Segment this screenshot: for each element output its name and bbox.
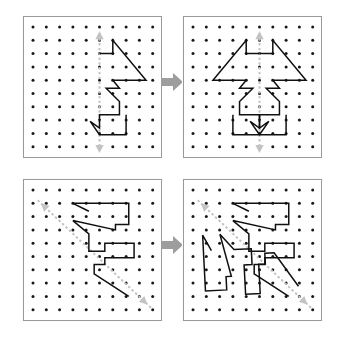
grid-dot (245, 268, 248, 271)
grid-dot (71, 79, 74, 82)
grid-dot (111, 215, 114, 218)
grid-dot (32, 202, 35, 205)
panel-example-1-before (23, 16, 162, 158)
grid-dot (125, 65, 128, 68)
grid-dot (71, 189, 74, 192)
grid-dot (311, 282, 314, 285)
grid-dot (192, 105, 195, 108)
grid-dot (58, 79, 61, 82)
grid-dot (271, 119, 274, 122)
grid-dot (58, 268, 61, 271)
geoboard-1-after (184, 17, 321, 157)
grid-dot (151, 92, 154, 95)
grid-dot (218, 202, 221, 205)
grid-dot (231, 215, 234, 218)
grid-dot (192, 255, 195, 258)
geoboard-1-before (24, 17, 161, 157)
grid-dot (138, 268, 141, 271)
grid-dot (205, 52, 208, 55)
grid-dot (218, 52, 221, 55)
grid-dot (311, 189, 314, 192)
grid-dot (218, 39, 221, 42)
grid-dot (45, 105, 48, 108)
grid-dot (45, 202, 48, 205)
grid-dot (98, 242, 101, 245)
grid-dot (125, 145, 128, 148)
grid-dot (151, 132, 154, 135)
grid-dot (151, 242, 154, 245)
geoboard-2-before (24, 180, 161, 320)
grid-dot (192, 282, 195, 285)
grid-dot (298, 52, 301, 55)
grid-dot (245, 215, 248, 218)
grid-dot (58, 39, 61, 42)
grid-dot (231, 282, 234, 285)
symmetry-worksheet-figure (0, 0, 347, 342)
grid-dot (125, 189, 128, 192)
grid-dot (231, 228, 234, 231)
example-row-2 (0, 171, 347, 334)
grid-dot (311, 268, 314, 271)
grid-dot (205, 39, 208, 42)
grid-dot (71, 308, 74, 311)
grid-dot (218, 119, 221, 122)
grid-dot (138, 228, 141, 231)
grid-dot (71, 228, 74, 231)
grid-dot (98, 282, 101, 285)
grid-dot (58, 308, 61, 311)
grid-dot (151, 255, 154, 258)
grid-dot (258, 228, 261, 231)
panel-example-2-before (23, 179, 162, 321)
grid-dot (245, 65, 248, 68)
grid-dot (125, 92, 128, 95)
grid-dot (258, 79, 261, 82)
grid-dot (111, 282, 114, 285)
grid-dot (258, 26, 261, 29)
grid-dot (85, 268, 88, 271)
grid-dot (298, 145, 301, 148)
grid-dot (151, 145, 154, 148)
grid-dot (58, 202, 61, 205)
grid-dot (138, 189, 141, 192)
grid-dot (218, 255, 221, 258)
grid-dot (285, 308, 288, 311)
grid-dot (32, 268, 35, 271)
grid-dot (98, 228, 101, 231)
grid-dot (32, 228, 35, 231)
grid-dot (311, 295, 314, 298)
grid-dot (45, 39, 48, 42)
grid-dot (45, 268, 48, 271)
grid-dot (192, 295, 195, 298)
grid-dot (71, 105, 74, 108)
grid-dot (311, 145, 314, 148)
grid-dot (45, 308, 48, 311)
grid-dot (58, 52, 61, 55)
grid-dot (58, 215, 61, 218)
grid-dot (298, 282, 301, 285)
grid-dot (231, 145, 234, 148)
grid-dot (218, 215, 221, 218)
grid-dot (245, 119, 248, 122)
grid-dot (311, 26, 314, 29)
grid-dot (138, 308, 141, 311)
grid-dot (245, 26, 248, 29)
grid-dot (298, 39, 301, 42)
grid-dot (85, 52, 88, 55)
grid-dot (85, 145, 88, 148)
grid-dot (151, 119, 154, 122)
grid-dot (71, 132, 74, 135)
grid-dot (45, 52, 48, 55)
grid-dot (138, 202, 141, 205)
grid-dot (192, 228, 195, 231)
grid-dot (192, 52, 195, 55)
grid-dot (192, 308, 195, 311)
grid-dot (245, 295, 248, 298)
grid-dot (71, 215, 74, 218)
grid-dot (298, 215, 301, 218)
grid-dot (138, 145, 141, 148)
grid-dot (151, 189, 154, 192)
grid-dot (311, 228, 314, 231)
grid-dot (311, 255, 314, 258)
grid-dot (151, 215, 154, 218)
grid-dot (138, 92, 141, 95)
